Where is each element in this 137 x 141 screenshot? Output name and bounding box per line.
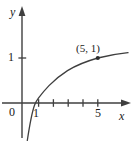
x-axis-label: x bbox=[119, 110, 124, 122]
origin-label: 0 bbox=[9, 106, 15, 118]
plot-canvas bbox=[0, 0, 137, 141]
x-tick-label-1: 1 bbox=[33, 107, 39, 119]
x-tick-label-5: 5 bbox=[95, 107, 101, 119]
y-tick-label-1: 1 bbox=[8, 51, 14, 63]
x-axis-arrowhead bbox=[121, 100, 131, 107]
point-annotation-label: (5, 1) bbox=[76, 43, 100, 54]
logarithmic-graph-figure: y x 0 1 5 1 (5, 1) bbox=[0, 0, 137, 141]
log-curve bbox=[27, 53, 128, 141]
y-axis-arrowhead bbox=[19, 6, 26, 16]
y-axis-label: y bbox=[10, 6, 15, 18]
marked-point-5-1 bbox=[96, 56, 100, 60]
